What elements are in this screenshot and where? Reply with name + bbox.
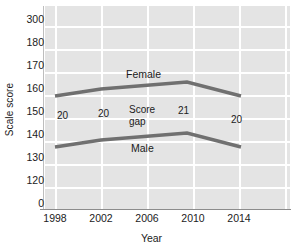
gridline-vertical [55,6,57,209]
y-tick-label-150: 150 [4,106,44,117]
gridline-horizontal [45,141,290,143]
x-tick-label-2014: 2014 [214,212,264,224]
female-series-label: Female [126,68,161,80]
y-tick-label-120: 120 [4,175,44,186]
y-tick-label-160: 160 [4,83,44,94]
plot-area [45,6,290,209]
line-chart: Scale score 300 180 170 160 150 140 130 … [0,0,303,250]
y-tick-label-180: 180 [4,37,44,48]
gap-value-1998: 20 [57,110,68,121]
gap-value-2002: 20 [98,108,109,119]
x-tick-label-2010: 2010 [168,212,218,224]
y-tick-label-130: 130 [4,152,44,163]
gridline-horizontal [45,26,290,28]
x-tick-label-2002: 2002 [76,212,126,224]
gridline-vertical [285,6,287,209]
gridline-vertical [193,6,195,209]
gridline-horizontal [45,118,290,120]
gridline-horizontal [45,49,290,51]
gridline-horizontal [45,187,290,189]
gridline-horizontal [45,164,290,166]
score-gap-caption-line2: gap [129,116,146,129]
gap-value-2007: 21 [178,105,189,116]
gridline-horizontal [45,72,290,74]
x-tick-label-1998: 1998 [30,212,80,224]
y-tick-label-140: 140 [4,129,44,140]
y-tick-label-300: 300 [4,14,44,25]
x-axis-line [40,209,291,210]
y-tick-label-170: 170 [4,60,44,71]
score-gap-caption-line1: Score [129,104,155,117]
y-tick-label-0: 0 [4,198,44,209]
x-tick-label-2006: 2006 [122,212,172,224]
male-series-label: Male [131,142,154,154]
x-axis-title: Year [0,232,303,244]
gap-value-2011: 20 [231,114,242,125]
gridline-vertical [239,6,241,209]
gridline-horizontal [45,95,290,97]
